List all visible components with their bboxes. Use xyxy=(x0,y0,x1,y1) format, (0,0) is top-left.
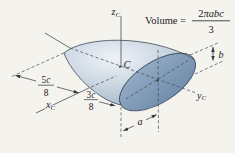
centroid-label: C xyxy=(124,59,132,70)
dim-5c8-denominator: 8 xyxy=(44,88,49,98)
dim-a-label: a xyxy=(138,116,143,127)
face-center-dot xyxy=(156,80,158,82)
dim-5c8-numerator: 5c xyxy=(42,75,52,85)
volume-formula-label: Volume = xyxy=(145,15,186,26)
diagram-canvas: zC C xC yC 5c 8 3c 8 a b Volume = 2πabc … xyxy=(0,0,235,153)
dim-b-label: b xyxy=(219,49,224,60)
dim-3c8-numerator: 3c xyxy=(87,90,97,100)
volume-formula-numerator: 2πabc xyxy=(198,8,224,19)
centroid-dot xyxy=(119,66,121,68)
dim-3c8-denominator: 8 xyxy=(89,102,94,112)
volume-formula-denominator: 3 xyxy=(208,24,213,35)
figure-semi-ellipsoid: zC C xC yC 5c 8 3c 8 a b Volume = 2πabc … xyxy=(0,0,235,153)
